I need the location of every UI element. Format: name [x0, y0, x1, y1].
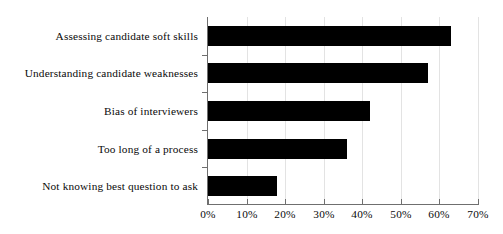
category-axis-labels: Assessing candidate soft skillsUnderstan…	[0, 17, 203, 205]
bar	[208, 139, 347, 159]
plot-area	[208, 17, 478, 205]
bar	[208, 101, 370, 121]
bar	[208, 176, 277, 196]
y-axis-tick	[202, 130, 207, 131]
category-label: Not knowing best question to ask	[0, 180, 198, 192]
y-axis-tick	[202, 92, 207, 93]
bar	[208, 63, 428, 83]
x-axis-tick	[439, 199, 440, 205]
x-axis-tick	[324, 199, 325, 205]
x-axis-tick-label: 50%	[381, 208, 421, 221]
x-axis-tick	[401, 199, 402, 205]
x-axis-tick	[478, 199, 479, 205]
x-axis-tick	[285, 199, 286, 205]
bar-chart: Assessing candidate soft skillsUnderstan…	[0, 0, 503, 234]
x-axis-tick	[362, 199, 363, 205]
bar	[208, 26, 451, 46]
category-label: Assessing candidate soft skills	[0, 30, 198, 42]
x-axis-tick-label: 20%	[265, 208, 305, 221]
x-axis-tick-label: 10%	[227, 208, 267, 221]
y-axis-line	[207, 17, 208, 205]
x-axis-tick-label: 60%	[419, 208, 459, 221]
category-label: Understanding candidate weaknesses	[0, 67, 198, 79]
x-axis-tick	[208, 199, 209, 205]
category-label: Too long of a process	[0, 143, 198, 155]
x-axis-tick-label: 30%	[304, 208, 344, 221]
y-axis-tick	[202, 55, 207, 56]
gridline	[478, 17, 479, 205]
category-label: Bias of interviewers	[0, 105, 198, 117]
x-axis-tick	[247, 199, 248, 205]
y-axis-tick	[202, 167, 207, 168]
x-axis-tick-label: 70%	[458, 208, 498, 221]
x-axis-tick-label: 40%	[342, 208, 382, 221]
x-axis-tick-label: 0%	[188, 208, 228, 221]
